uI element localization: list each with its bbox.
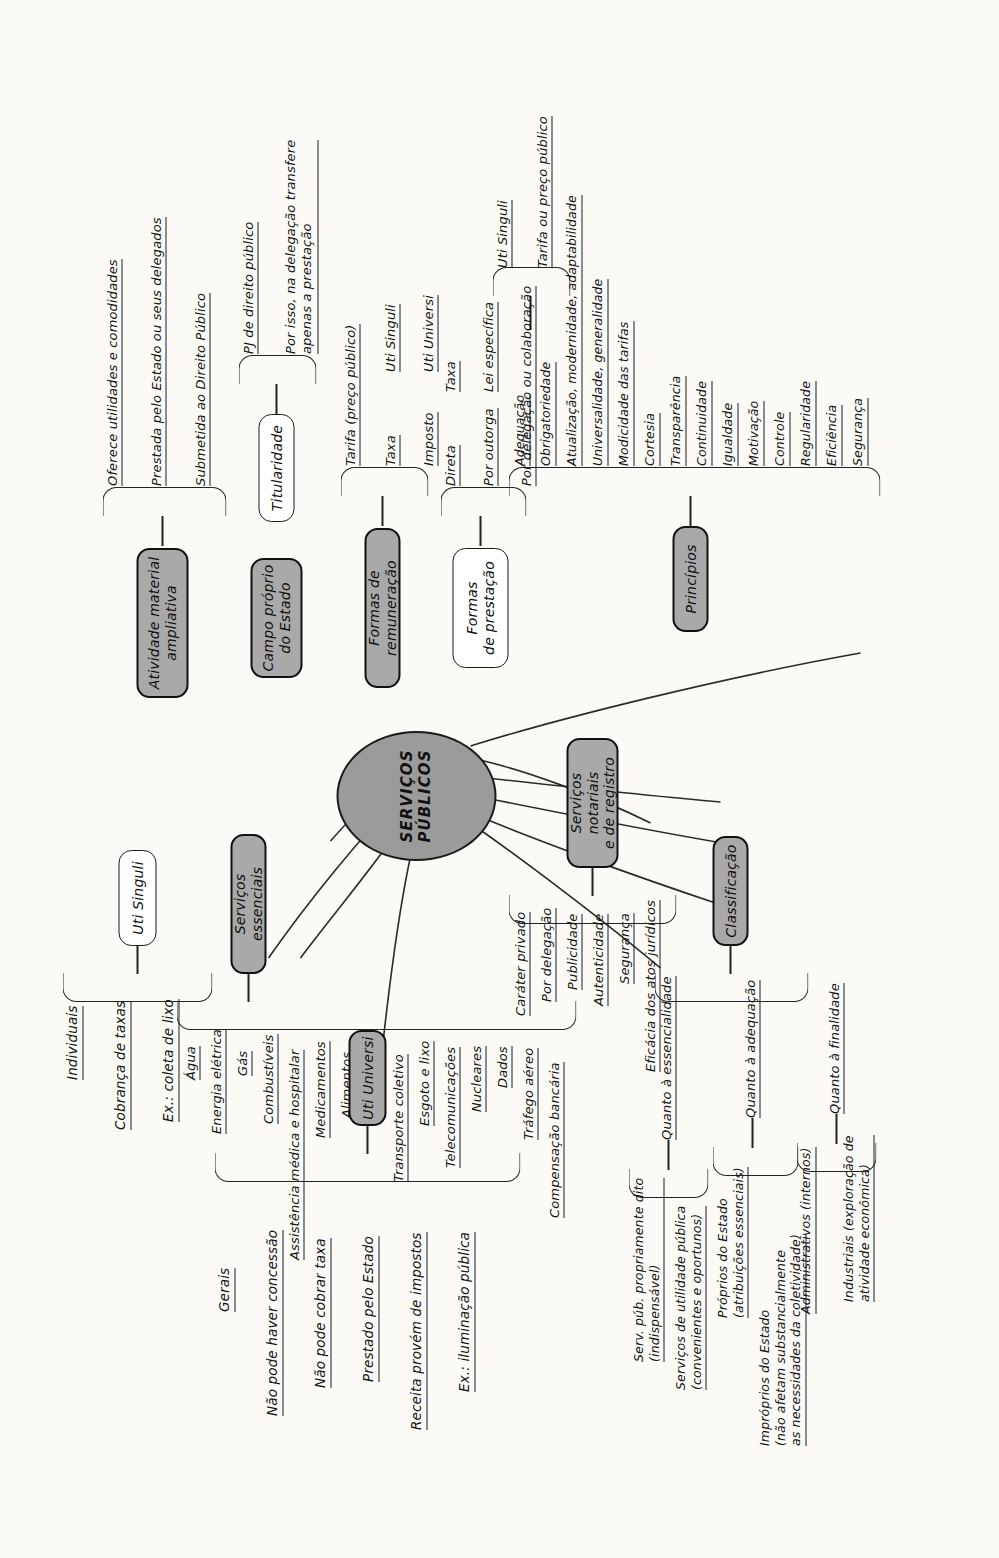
annot-prestacao-lei: Lei específica (480, 302, 498, 392)
leaf-classif-0-0: Serv. púb. propriamente dito (indispensá… (630, 1178, 664, 1362)
link-center-principios (470, 653, 860, 746)
mindmap-stage: SERVIÇOS PÚBLICOS Uti Universi Gerais Nã… (0, 0, 999, 1558)
leaf-essencial-3: Combustíveis (260, 1034, 278, 1124)
leaf-uti-universi-2: Não pode cobrar taxa (312, 1238, 331, 1388)
node-classificacao[interactable]: Classificação (712, 836, 748, 946)
conn-classif-group-1 (751, 1118, 753, 1148)
leaf-principio-10: Controle (772, 412, 790, 466)
leaf-prestacao-0: Direta (442, 445, 460, 486)
bracket-uti-singuli (62, 973, 212, 1002)
leaf-notarial-2: Publicidade (564, 914, 582, 990)
annot-remuneracao-1: Uti Universi (420, 295, 438, 372)
node-servicos-notariais[interactable]: Serviços notariais e de registro (566, 738, 618, 868)
leaf-principio-13: Segurança (850, 398, 868, 466)
conn-uti-universi (366, 1124, 368, 1154)
leaf-titularidade-1: Por isso, na delegação transfere apenas … (282, 140, 318, 354)
leaf-remuneracao-2: Imposto (420, 412, 438, 466)
leaf-principio-7: Continuidade (694, 381, 712, 466)
node-atividade-material[interactable]: Atividade material ampliativa (136, 548, 188, 698)
leaf-principio-3: Universalidade, generalidade (590, 279, 608, 466)
bracket-principios (508, 467, 880, 496)
conn-classificacao (729, 944, 731, 974)
leaf-classif-group-1: Quanto à adequação (742, 980, 760, 1118)
leaf-prestacao-1: Por outorga (480, 408, 498, 486)
leaf-notarial-5: Eficácia dos atos jurídicos (642, 900, 660, 1072)
node-uti-universi[interactable]: Uti Universi (348, 1030, 386, 1126)
leaf-essencial-14: Compensação bancária (546, 1062, 564, 1218)
leaf-principio-1: Obrigatoriedade (538, 362, 556, 466)
node-servicos-essenciais[interactable]: Serviços essenciais (230, 834, 266, 974)
bracket-atividade-material (102, 487, 226, 516)
leaf-essencial-4: Assistência médica e hospitalar (286, 1050, 304, 1260)
bracket-titularidade (238, 355, 316, 384)
leaf-essencial-1: Energia elétrica (208, 1029, 226, 1134)
leaf-classif-2-1: Industriais (exploração de atividade eco… (840, 1135, 874, 1302)
bracket-formas-remuneracao (340, 467, 428, 496)
annot-remuneracao-0: Uti Singuli (382, 304, 400, 372)
conn-classif-group-0 (667, 1140, 669, 1170)
leaf-classif-group-2: Quanto à finalidade (826, 983, 844, 1114)
leaf-essencial-13: Tráfego aéreo (520, 1048, 538, 1140)
node-titularidade[interactable]: Titularidade (258, 414, 294, 522)
bracket-uti-universi (214, 1153, 520, 1182)
conn-atividade-material (161, 516, 163, 546)
conn-classif-group-2 (835, 1114, 837, 1144)
leaf-atividade-1: Prestada pelo Estado ou seus delegados (148, 217, 166, 486)
leaf-principio-0: Adequação (512, 395, 530, 466)
leaf-classif-2-0: Administrativos (internos) (798, 1147, 816, 1314)
annot-prestacao-taxa: Taxa (442, 361, 460, 392)
node-formas-prestacao[interactable]: Formas de prestação (452, 548, 508, 668)
conn-servicos-notariais (591, 866, 593, 896)
leaf-uti-universi-3: Prestado pelo Estado (360, 1236, 379, 1382)
leaf-uti-universi-5: Ex.: iluminação pública (456, 1232, 475, 1392)
node-formas-remuneracao[interactable]: Formas de remuneração (364, 528, 400, 688)
leaf-essencial-8: Transporte coletivo (390, 1054, 408, 1182)
leaf-essencial-11: Nucleares (468, 1046, 486, 1112)
conn-titularidade (275, 384, 277, 414)
leaf-remuneracao-1: Taxa (382, 435, 400, 466)
mindmap-page: SERVIÇOS PÚBLICOS Uti Universi Gerais Nã… (0, 0, 999, 1558)
bracket-classificacao (654, 973, 808, 1002)
leaf-remuneracao-0: Tarifa (preço público) (342, 324, 360, 466)
leaf-notarial-0: Caráter privado (512, 912, 530, 1016)
leaf-principio-8: Igualdade (720, 403, 738, 466)
leaf-principio-4: Modicidade das tarifas (616, 321, 634, 466)
leaf-notarial-1: Por delegação (538, 908, 556, 1002)
leaf-essencial-10: Telecomunicações (442, 1047, 460, 1168)
leaf-uti-singuli-0: Individuais (64, 1006, 83, 1080)
leaf-essencial-9: Esgoto e lixo (416, 1041, 434, 1126)
leaf-notarial-3: Autenticidade (590, 914, 608, 1006)
conn-uti-singuli (136, 944, 138, 974)
leaf-uti-universi-0: Gerais (216, 1268, 235, 1312)
leaf-principio-9: Motivação (746, 401, 764, 466)
leaf-notarial-4: Segurança (616, 913, 634, 984)
leaf-essencial-0: Água (182, 1046, 200, 1080)
conn-principios (689, 496, 691, 526)
annot-prestacao-uti-singuli: Uti Singuli (494, 200, 512, 268)
leaf-principio-6: Transparência (668, 376, 686, 466)
leaf-classif-group-0: Quanto à essencialidade (658, 976, 676, 1140)
leaf-essencial-2: Gás (234, 1051, 252, 1076)
leaf-essencial-5: Medicamentos (312, 1041, 330, 1138)
leaf-titularidade-0: PJ de direito público (240, 222, 258, 354)
leaf-principio-12: Eficiência (824, 405, 842, 466)
leaf-uti-universi-4: Receita provém de impostos (408, 1232, 427, 1430)
node-uti-singuli[interactable]: Uti Singuli (118, 850, 156, 946)
conn-formas-remuneracao (381, 496, 383, 526)
leaf-atividade-0: Oferece utilidades e comodidades (104, 259, 122, 486)
leaf-atividade-2: Submetida ao Direito Público (192, 293, 210, 486)
node-campo-proprio[interactable]: Campo próprio do Estado (250, 558, 302, 678)
center-node[interactable]: SERVIÇOS PÚBLICOS (336, 731, 496, 861)
leaf-uti-singuli-1: Cobrança de taxas (112, 1001, 131, 1130)
leaf-principio-5: Cortesia (642, 413, 660, 466)
leaf-principio-2: Atualização, modernidade, adaptabilidade (564, 195, 582, 466)
leaf-classif-0-1: Serviços de utilidade pública (convenien… (672, 1206, 706, 1390)
leaf-uti-singuli-2: Ex.: coleta de lixo (160, 999, 179, 1122)
node-principios[interactable]: Princípios (672, 526, 708, 632)
conn-servicos-essenciais (247, 972, 249, 1002)
leaf-uti-universi-1: Não pode haver concessão (264, 1230, 283, 1416)
leaf-classif-1-0: Próprios do Estado (atribuições essencia… (714, 1167, 748, 1318)
leaf-essencial-12: Dados (494, 1046, 512, 1088)
leaf-principio-11: Regularidade (798, 381, 816, 466)
annot-prestacao-tarifa: Tarifa ou preço público (534, 116, 552, 268)
